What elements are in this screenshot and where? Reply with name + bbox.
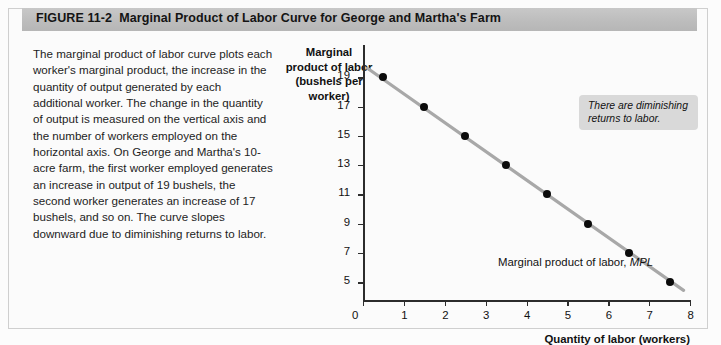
x-tick-label: 1 [401,309,407,321]
y-tick: 5 [358,282,364,283]
x-tick-label: 3 [483,309,489,321]
x-tick: 6 [608,300,609,306]
figure-title-text: Marginal Product of Labor Curve for Geor… [119,11,501,25]
y-tick-label: 19 [337,69,350,81]
figure-header-bar: FIGURE 11-2Marginal Product of Labor Cur… [22,8,697,31]
x-tick-label: 8 [687,309,693,321]
figure-root: Marginal Product Curve and the change in… [0,0,721,345]
x-tick-label: 5 [565,309,571,321]
data-point [461,132,469,140]
y-tick: 11 [358,194,364,195]
y-tick-label: 7 [344,245,350,257]
origin-label: 0 [352,309,358,321]
chart: Marginalproduct of labor(bushels perwork… [280,40,700,325]
x-tick: 5 [567,300,568,306]
y-tick-label: 9 [344,216,350,228]
y-tick: 9 [358,224,364,225]
y-tick: 13 [358,165,364,166]
figure-title: FIGURE 11-2Marginal Product of Labor Cur… [36,11,501,25]
x-tick-label: 4 [524,309,530,321]
x-tick: 3 [486,300,487,306]
curve-label-abbr: MPL [630,256,653,268]
y-tick: 15 [358,136,364,137]
data-point [420,103,428,111]
y-tick-label: 13 [337,157,350,169]
x-tick: 1 [404,300,405,306]
figure-number: FIGURE 11-2 [36,11,112,25]
curve-label: Marginal product of labor, MPL [498,256,653,268]
x-tick: 4 [527,300,528,306]
x-tick: 2 [445,300,446,306]
y-tick: 17 [358,107,364,108]
plot-area: 1917151311975 12345678 0 There are dimin… [363,45,690,300]
y-tick-label: 15 [337,128,350,140]
figure-caption: The marginal product of labor curve plot… [33,46,273,242]
x-tick-label: 6 [606,309,612,321]
annotation-diminishing-returns: There are diminishing returns to labor. [579,95,698,130]
y-tick: 19 [358,77,364,78]
x-tick-label: 2 [442,309,448,321]
y-tick-label: 17 [337,99,350,111]
curve-label-prefix: Marginal product of labor, [498,256,630,268]
x-tick: 7 [649,300,650,306]
y-tick: 7 [358,253,364,254]
data-point [666,278,674,286]
y-tick-label: 11 [338,186,350,198]
x-tick-label: 7 [647,309,653,321]
data-point [584,220,592,228]
y-tick-label: 5 [344,274,350,286]
x-tick: 8 [690,300,691,306]
x-tick [363,300,364,306]
x-axis-title: Quantity of labor (workers) [363,333,690,345]
